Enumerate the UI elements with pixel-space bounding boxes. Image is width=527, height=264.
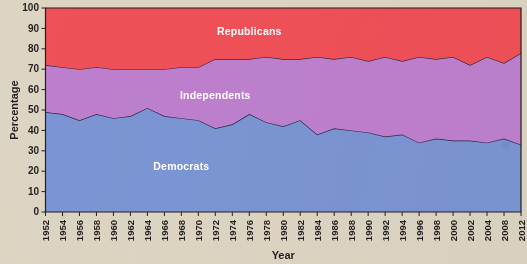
x-tick-label-2004: 2004 bbox=[482, 219, 493, 241]
x-tick-label-1976: 1976 bbox=[244, 220, 255, 241]
x-tick-label-1984: 1984 bbox=[312, 219, 323, 241]
band-label-democrats: Democrats bbox=[153, 160, 209, 172]
y-tick-label-90: 90 bbox=[28, 23, 40, 34]
x-tick-label-1988: 1988 bbox=[346, 220, 357, 241]
x-tick-label-1972: 1972 bbox=[210, 220, 221, 241]
chart-canvas: 0102030405060708090100195219541956195819… bbox=[0, 0, 527, 264]
x-tick-label-1978: 1978 bbox=[261, 220, 272, 241]
y-tick-label-70: 70 bbox=[28, 63, 40, 74]
x-tick-label-2002: 2002 bbox=[465, 220, 476, 241]
y-tick-label-40: 40 bbox=[28, 125, 40, 136]
x-tick-label-1974: 1974 bbox=[227, 219, 238, 241]
x-tick-label-1970: 1970 bbox=[193, 220, 204, 241]
x-tick-label-1962: 1962 bbox=[125, 220, 136, 241]
band-label-independents: Independents bbox=[180, 89, 251, 101]
x-tick-label-1964: 1964 bbox=[142, 219, 153, 241]
x-tick-label-2012: 2012 bbox=[516, 220, 527, 241]
x-tick-label-1980: 1980 bbox=[278, 220, 289, 241]
band-label-republicans: Republicans bbox=[217, 25, 282, 37]
y-tick-label-50: 50 bbox=[28, 104, 40, 115]
x-tick-label-1982: 1982 bbox=[295, 220, 306, 241]
x-tick-label-1966: 1966 bbox=[159, 220, 170, 241]
y-tick-label-10: 10 bbox=[28, 186, 40, 197]
x-tick-label-1992: 1992 bbox=[380, 220, 391, 241]
x-tick-label-1960: 1960 bbox=[108, 220, 119, 241]
x-tick-label-2000: 2000 bbox=[448, 220, 459, 241]
y-tick-label-80: 80 bbox=[28, 43, 40, 54]
party-identification-area-chart: 0102030405060708090100195219541956195819… bbox=[0, 0, 527, 264]
x-tick-label-1968: 1968 bbox=[176, 220, 187, 241]
x-tick-label-1952: 1952 bbox=[40, 220, 51, 241]
y-tick-label-60: 60 bbox=[28, 84, 40, 95]
x-tick-label-1986: 1986 bbox=[329, 220, 340, 241]
x-axis-title: Year bbox=[272, 249, 296, 261]
chart-areas bbox=[46, 8, 522, 212]
x-tick-label-2008: 2008 bbox=[499, 220, 510, 241]
y-tick-label-20: 20 bbox=[28, 165, 40, 176]
x-tick-label-1990: 1990 bbox=[363, 220, 374, 241]
y-tick-label-0: 0 bbox=[33, 206, 39, 217]
y-axis-title: Percentage bbox=[8, 80, 20, 139]
x-tick-label-1996: 1996 bbox=[414, 220, 425, 241]
x-tick-label-1954: 1954 bbox=[57, 219, 68, 241]
x-tick-label-1994: 1994 bbox=[397, 219, 408, 241]
x-tick-label-1958: 1958 bbox=[91, 220, 102, 241]
x-tick-label-1998: 1998 bbox=[431, 220, 442, 241]
y-tick-label-100: 100 bbox=[22, 2, 39, 13]
x-tick-label-1956: 1956 bbox=[74, 220, 85, 241]
y-tick-label-30: 30 bbox=[28, 145, 40, 156]
